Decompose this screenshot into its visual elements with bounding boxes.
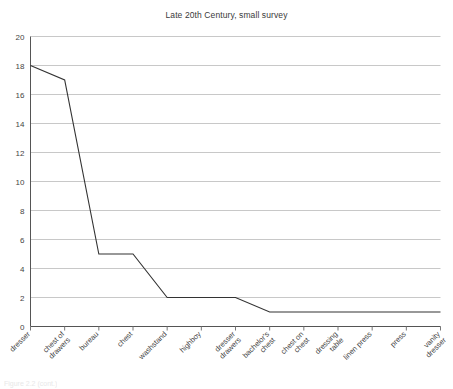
x-tick-label-group: vanitydresser [418, 329, 448, 359]
x-tick-label-group: bureau [77, 330, 100, 353]
x-tick-label-group: highboy [178, 329, 203, 354]
line-chart-plot: 02468101214161820 dresserchest ofdrawers… [0, 0, 453, 389]
x-tick-label: bureau [77, 330, 100, 353]
x-tick-label: washstand [136, 330, 168, 362]
series-polyline [31, 66, 441, 313]
x-tick-label-group: press [388, 329, 408, 349]
gridlines-group [31, 37, 441, 327]
y-tick-label: 8 [20, 207, 25, 216]
x-tick-label: dresser [8, 329, 32, 353]
y-tick-label: 10 [16, 178, 25, 187]
x-tick-label-group: chest onchest [279, 329, 312, 362]
x-tick-label-group: dresser [8, 329, 32, 353]
y-tick-label: 18 [16, 62, 25, 71]
y-tick-label: 6 [20, 236, 25, 245]
y-tick-label: 16 [16, 91, 25, 100]
y-tick-label: 4 [20, 265, 25, 274]
chart-container: Late 20th Century, small survey 02468101… [0, 0, 453, 389]
x-tick-label-group: chest [115, 329, 135, 349]
y-axis-tick-labels: 02468101214161820 [16, 33, 25, 332]
y-tick-label: 20 [16, 33, 25, 42]
x-tick-label-group: bachelor'schest [241, 329, 278, 366]
x-tick-label: highboy [178, 329, 203, 354]
x-tick-label-group: washstand [136, 330, 168, 362]
x-tick-label: press [388, 329, 408, 349]
x-tick-label-group: linen press [342, 329, 374, 361]
y-tick-label: 14 [16, 120, 25, 129]
y-tick-label: 2 [20, 294, 25, 303]
figure-caption: Figure 2.2 (cont.) [4, 380, 57, 389]
x-axis-tick-labels: dresserchest ofdrawersbureauchestwashsta… [8, 329, 448, 366]
x-tick-label: chest [115, 329, 135, 349]
x-tick-label-group: dresserdrawers [212, 329, 244, 361]
y-tick-label: 12 [16, 149, 25, 158]
x-tick-label-group: dressingtable [313, 330, 345, 362]
data-series-line [31, 66, 441, 313]
x-axis-tick-marks [31, 327, 441, 331]
x-tick-label-group: chest ofdrawers [41, 329, 73, 361]
x-tick-label: linen press [342, 329, 374, 361]
